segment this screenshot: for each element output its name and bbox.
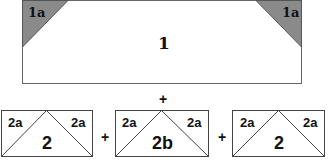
bottom-piece-2-label: 2b	[152, 134, 173, 152]
bottom-piece-2-left-label: 2a	[122, 116, 136, 129]
bottom-piece-3-left-label: 2a	[240, 116, 254, 129]
bottom-piece-3-label: 2	[274, 134, 284, 152]
bottom-piece-3-right-label: 2a	[303, 116, 317, 129]
top-left-corner-label: 1a	[28, 6, 45, 19]
bottom-piece-1-label: 2	[42, 134, 52, 152]
plus-sign-top: +	[159, 92, 167, 106]
top-right-corner-label: 1a	[282, 6, 299, 19]
top-piece-label: 1	[158, 35, 170, 52]
plus-sign-2: +	[218, 130, 226, 144]
plus-sign-1: +	[101, 130, 109, 144]
bottom-piece-1-right-label: 2a	[71, 116, 85, 129]
bottom-piece-2-right-label: 2a	[187, 116, 201, 129]
bottom-piece-1-left-label: 2a	[8, 116, 22, 129]
